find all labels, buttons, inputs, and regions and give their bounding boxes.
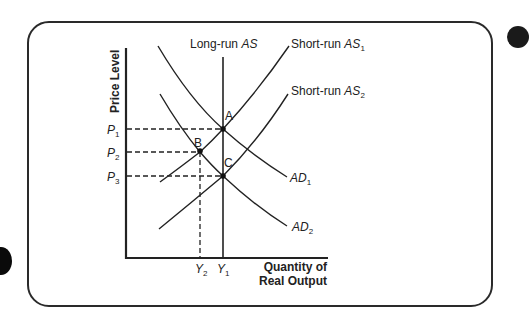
price-tick-p2: P2 <box>107 146 120 162</box>
point-b-label: B <box>194 136 202 150</box>
output-tick-y2: Y2 <box>195 262 208 278</box>
point-c-marker <box>220 173 226 179</box>
price-tick-p3: P3 <box>107 170 120 186</box>
short-run-as1-label: Short-run AS1 <box>291 37 365 53</box>
ad1-label: AD1 <box>289 171 312 187</box>
point-c-label: C <box>224 156 233 170</box>
long-run-as-label: Long-run AS <box>190 37 257 51</box>
point-a-label: A <box>225 109 233 123</box>
price-tick-p1: P1 <box>107 123 120 139</box>
short-run-as2-label: Short-run AS2 <box>291 84 365 100</box>
ad2-label: AD2 <box>291 220 314 236</box>
x-axis-label-line1: Quantity of <box>264 260 328 274</box>
x-axis-label-line2: Real Output <box>259 274 327 288</box>
y-axis-label: Price Level <box>108 50 122 113</box>
point-a-marker <box>220 126 226 132</box>
output-tick-y1: Y1 <box>217 262 230 278</box>
